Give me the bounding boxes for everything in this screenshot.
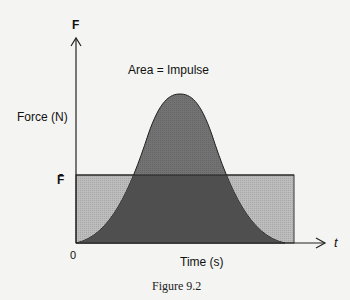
average-force-label: F̄ [57,173,64,187]
impulse-diagram [0,0,350,300]
figure-caption: Figure 9.2 [152,279,201,294]
y-axis-label: Force (N) [17,110,68,124]
x-axis-label: Time (s) [180,255,224,269]
origin-label: 0 [70,249,76,261]
annotation-area-impulse: Area = Impulse [128,63,209,77]
y-axis-symbol: F [72,18,79,32]
x-axis-symbol: t [334,235,338,250]
